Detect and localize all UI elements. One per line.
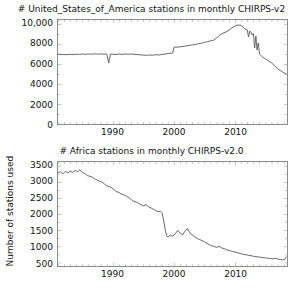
chart-title-usa: # United_States_of_America stations in m… xyxy=(0,4,303,14)
plot-area-usa xyxy=(57,19,288,125)
y-tick-label: 0 xyxy=(0,121,53,130)
y-tick-label: 8000 xyxy=(0,39,53,48)
line-plot-africa xyxy=(58,162,287,266)
figure-canvas: # United_States_of_America stations in m… xyxy=(0,0,303,290)
plot-area-africa xyxy=(57,161,288,267)
x-tick-label: 1990 xyxy=(101,270,124,279)
series-line-africa xyxy=(58,170,286,260)
y-tick-label: 3000 xyxy=(0,177,53,186)
tick-marks-usa xyxy=(58,20,287,124)
y-tick-label: 10,000 xyxy=(0,19,53,28)
series-line-usa xyxy=(58,25,286,74)
y-tick-label: 1500 xyxy=(0,226,53,235)
x-tick-label: 2010 xyxy=(224,128,247,137)
x-tick-label: 2000 xyxy=(163,270,186,279)
line-plot-usa xyxy=(58,20,287,124)
x-tick-label: 1990 xyxy=(101,128,124,137)
y-tick-label: 500 xyxy=(0,259,53,268)
y-tick-label: 6000 xyxy=(0,59,53,68)
y-tick-label: 1000 xyxy=(0,243,53,252)
x-tick-label: 2010 xyxy=(224,270,247,279)
y-tick-label: 4000 xyxy=(0,80,53,89)
x-tick-label: 2000 xyxy=(163,128,186,137)
y-tick-label: 3500 xyxy=(0,160,53,169)
y-tick-label: 2500 xyxy=(0,193,53,202)
y-tick-label: 2000 xyxy=(0,100,53,109)
y-tick-label: 2000 xyxy=(0,210,53,219)
chart-title-africa: # Africa stations in monthly CHIRPS-v2.0 xyxy=(0,146,303,156)
